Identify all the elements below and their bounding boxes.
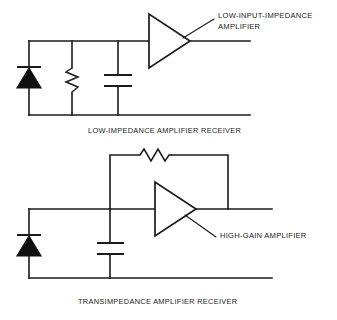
label-low-input-impedance-amplifier: LOW-INPUT-IMPEDANCEAMPLIFIER [218, 11, 312, 32]
amplifier-triangle [149, 14, 190, 68]
label-high-gain-amplifier: HIGH-GAIN AMPLIFIER [220, 231, 307, 242]
photodiode-anode-triangle [17, 68, 41, 88]
label-low-input-impedance-line1: LOW-INPUT-IMPEDANCE [218, 11, 312, 20]
annotation-leader-line [183, 19, 214, 38]
amplifier-triangle-2 [155, 182, 196, 236]
annotation-leader-line-2 [185, 215, 216, 237]
feedback-left-wire [110, 155, 140, 209]
schematic-canvas [0, 0, 337, 320]
caption-transimpedance-amplifier-receiver: TRANSIMPEDANCE AMPLIFIER RECEIVER [78, 297, 237, 306]
label-low-input-impedance-line2: AMPLIFIER [218, 22, 260, 31]
feedback-resistor-zigzag [140, 149, 172, 161]
figure-root: LOW-INPUT-IMPEDANCEAMPLIFIER LOW-IMPEDAN… [0, 0, 337, 320]
circuit-low-impedance [17, 14, 250, 115]
load-resistor-zigzag [66, 68, 78, 94]
caption-low-impedance-amplifier-receiver: LOW-IMPEDANCE AMPLIFIER RECEIVER [88, 126, 241, 135]
photodiode-anode-triangle-2 [17, 236, 41, 256]
circuit-transimpedance [17, 149, 272, 278]
